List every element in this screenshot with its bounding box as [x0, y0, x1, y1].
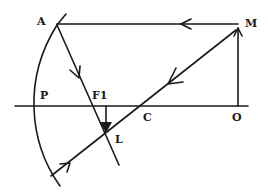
ray-through-center — [51, 30, 236, 176]
ray-diagram: A M P F1 C O L — [0, 0, 268, 195]
label-F1: F1 — [92, 89, 107, 102]
label-C: C — [143, 111, 152, 124]
label-P: P — [40, 89, 48, 102]
concave-mirror — [34, 14, 66, 186]
label-O: O — [232, 111, 242, 124]
label-A: A — [36, 15, 46, 28]
ray-reflected-through-focus — [57, 25, 119, 165]
label-M: M — [245, 17, 257, 30]
label-L: L — [115, 133, 123, 146]
